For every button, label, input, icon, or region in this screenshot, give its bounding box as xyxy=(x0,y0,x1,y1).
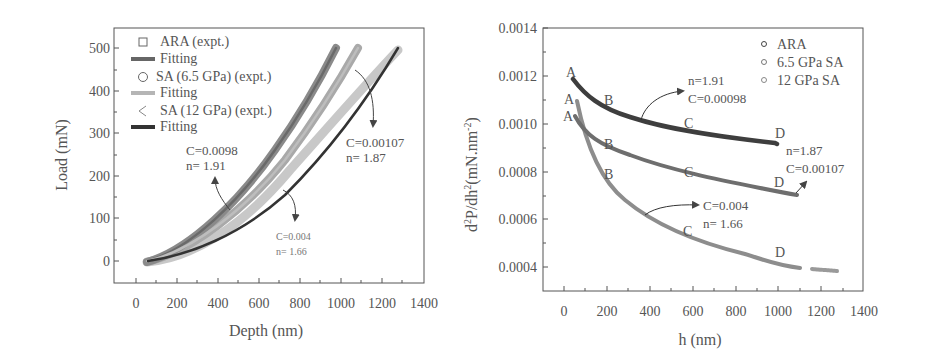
legend-sa65: 6.5 GPa SA xyxy=(777,55,844,70)
right-ytick-0.0014: 0.0014 xyxy=(499,21,538,36)
legend-sa65-circle-icon xyxy=(762,60,767,65)
right-x-axis xyxy=(564,286,843,291)
label-sa12-C: C xyxy=(683,224,692,239)
annot-ara-c: C=0.00098 xyxy=(688,91,746,106)
legend-sa12-fit: Fitting xyxy=(160,119,197,134)
left-xtick-1400: 1400 xyxy=(410,296,438,311)
right-annotations: n=1.91 C=0.00098 n=1.87 C=0.00107 C=0.00… xyxy=(641,73,845,231)
annot-sa12-c: C=0.004 xyxy=(276,231,311,242)
left-x-axis-title: Depth (nm) xyxy=(229,322,303,340)
legend-sa65-expt: SA (6.5 GPa) (expt.) xyxy=(156,69,272,85)
right-y-axis xyxy=(543,28,548,267)
left-chart: 0 100 200 300 400 500 0 200 400 600 800 … xyxy=(53,28,438,340)
right-xtick-0: 0 xyxy=(561,304,568,319)
annot-ara-n: n=1.91 xyxy=(688,73,725,88)
annot-sa65-c: C=0.00107 xyxy=(346,135,405,150)
legend-sa12: 12 GPa SA xyxy=(777,73,841,88)
right-xtick-1200: 1200 xyxy=(807,304,835,319)
label-ara-C: C xyxy=(684,116,693,131)
right-y-axis-title: d2P/dh2(mN.nm-2) xyxy=(462,117,481,232)
left-xtick-400: 400 xyxy=(208,296,229,311)
legend-ara-circle-icon xyxy=(762,42,767,47)
annot-sa12-n: n= 1.66 xyxy=(703,216,743,231)
right-ytick-0.0010: 0.0010 xyxy=(499,117,538,132)
legend-ara: ARA xyxy=(777,37,807,52)
right-chart: 0.0014 0.0012 0.0010 0.0008 0.0006 0.000… xyxy=(462,21,878,349)
left-ytick-100: 100 xyxy=(89,211,110,226)
legend-square-icon xyxy=(139,38,147,46)
left-x-axis xyxy=(136,278,402,283)
left-xtick-600: 600 xyxy=(249,296,270,311)
legend-ara-fit: Fitting xyxy=(160,51,197,66)
annot-sa65-n: n= 1.87 xyxy=(346,150,386,165)
left-xtick-0: 0 xyxy=(133,296,140,311)
label-sa65-A: A xyxy=(563,109,574,124)
left-xtick-1200: 1200 xyxy=(368,296,396,311)
legend-sa12-circle-icon xyxy=(762,78,767,83)
label-sa12-D: D xyxy=(775,245,785,260)
left-legend: ARA (expt.) Fitting SA (6.5 GPa) (expt.)… xyxy=(131,34,272,134)
figure: 0 100 200 300 400 500 0 200 400 600 800 … xyxy=(0,0,930,361)
label-sa12-A: A xyxy=(564,92,575,107)
annot-sa12-c: C=0.004 xyxy=(703,198,749,213)
legend-circle-icon xyxy=(139,73,148,82)
legend-sa65-fit: Fitting xyxy=(160,85,197,100)
left-xtick-800: 800 xyxy=(290,296,311,311)
left-ytick-500: 500 xyxy=(89,41,110,56)
series-ara xyxy=(573,79,777,144)
right-legend: ARA 6.5 GPa SA 12 GPa SA xyxy=(762,37,845,88)
series-12gpa-sa-tail xyxy=(812,269,837,271)
annot-ara-n: n= 1.91 xyxy=(186,158,226,173)
annot-sa65-n: n=1.87 xyxy=(786,143,823,158)
right-xtick-1000: 1000 xyxy=(764,304,792,319)
label-sa65-D: D xyxy=(774,175,784,190)
label-ara-A: A xyxy=(566,65,577,80)
annot-ara-c: C=0.0098 xyxy=(186,143,238,158)
left-xtick-200: 200 xyxy=(167,296,188,311)
left-xtick-1000: 1000 xyxy=(327,296,355,311)
right-xtick-600: 600 xyxy=(683,304,704,319)
left-ytick-0: 0 xyxy=(103,254,110,269)
right-ytick-0.0008: 0.0008 xyxy=(499,165,538,180)
left-y-axis xyxy=(114,48,119,261)
label-sa65-B: B xyxy=(604,137,613,152)
legend-triangle-icon xyxy=(139,106,146,116)
right-ytick-0.0012: 0.0012 xyxy=(499,69,538,84)
right-xtick-400: 400 xyxy=(640,304,661,319)
label-sa12-B: B xyxy=(604,167,613,182)
annot-sa12-n: n= 1.66 xyxy=(276,246,307,257)
right-ytick-0.0006: 0.0006 xyxy=(499,212,538,227)
right-ytick-0.0004: 0.0004 xyxy=(499,260,538,275)
left-y-axis-title: Load (mN) xyxy=(53,119,71,191)
left-ytick-400: 400 xyxy=(89,84,110,99)
legend-sa12-expt: SA (12 GPa) (expt.) xyxy=(160,103,272,119)
label-sa65-C: C xyxy=(684,165,693,180)
right-x-axis-title: h (nm) xyxy=(678,331,721,349)
legend-ara-expt: ARA (expt.) xyxy=(160,34,230,50)
right-xtick-200: 200 xyxy=(597,304,618,319)
label-ara-D: D xyxy=(775,126,785,141)
right-xtick-800: 800 xyxy=(726,304,747,319)
right-xtick-1400: 1400 xyxy=(850,304,878,319)
annot-sa65-c: C=0.00107 xyxy=(786,161,845,176)
left-ytick-300: 300 xyxy=(89,126,110,141)
label-ara-B: B xyxy=(604,93,613,108)
left-ytick-200: 200 xyxy=(89,169,110,184)
